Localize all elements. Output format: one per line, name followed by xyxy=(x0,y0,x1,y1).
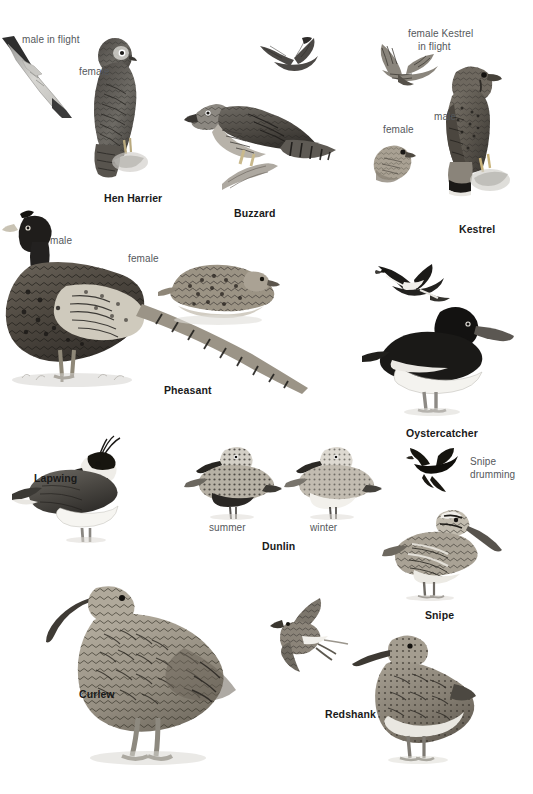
label-snipe-drumming-line1: Snipe xyxy=(470,456,496,467)
label-kestrel-female-in-flight-line2: in flight xyxy=(418,41,451,52)
species-name-redshank: Redshank xyxy=(325,709,376,721)
illustration-kestrel-female-perched xyxy=(370,136,424,188)
species-name-dunlin: Dunlin xyxy=(262,541,295,553)
illustration-dunlin-winter xyxy=(282,437,382,519)
field-guide-plate: male in flight female Hen Harrier Buzzar… xyxy=(0,0,533,794)
label-pheasant-female: female xyxy=(128,253,159,264)
species-name-curlew: Curlew xyxy=(79,689,115,701)
label-dunlin-summer: summer xyxy=(209,522,246,533)
label-snipe-drumming-line2: drumming xyxy=(470,469,515,480)
label-harrier-female: female xyxy=(79,66,110,77)
species-name-oystercatcher: Oystercatcher xyxy=(406,428,478,440)
illustration-kestrel-male-perched xyxy=(432,58,518,198)
illustration-pheasant-female xyxy=(156,258,286,328)
illustration-buzzard-flight xyxy=(258,34,328,80)
illustration-harrier-male-flight xyxy=(0,36,74,120)
species-name-buzzard: Buzzard xyxy=(234,208,276,220)
illustration-curlew-standing xyxy=(34,578,244,768)
illustration-oystercatcher-standing xyxy=(358,296,518,416)
label-harrier-male-in-flight: male in flight xyxy=(22,34,80,45)
illustration-lapwing-standing xyxy=(10,436,140,542)
illustration-snipe-standing xyxy=(382,500,504,604)
illustration-redshank-standing xyxy=(346,624,476,766)
illustration-harrier-female-perched xyxy=(66,34,166,182)
label-dunlin-winter: winter xyxy=(310,522,337,533)
illustration-snipe-drumming xyxy=(404,444,468,496)
illustration-redshank-flight xyxy=(268,596,352,676)
species-name-kestrel: Kestrel xyxy=(459,224,495,236)
illustration-dunlin-summer xyxy=(182,437,282,519)
illustration-buzzard-perched xyxy=(182,84,342,196)
species-name-lapwing: Lapwing xyxy=(34,473,77,485)
species-name-pheasant: Pheasant xyxy=(164,385,212,397)
species-name-snipe: Snipe xyxy=(425,610,454,622)
label-kestrel-female: female xyxy=(383,124,414,135)
label-kestrel-male: male xyxy=(434,111,456,122)
label-pheasant-male: male xyxy=(50,235,72,246)
species-name-hen-harrier: Hen Harrier xyxy=(104,193,162,205)
label-kestrel-female-in-flight-line1: female Kestrel xyxy=(408,28,473,39)
